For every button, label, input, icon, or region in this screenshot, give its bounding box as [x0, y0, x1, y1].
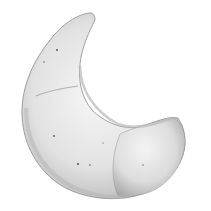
illustration-canvas: [0, 0, 211, 211]
crescent-specimen-illustration: [0, 0, 211, 211]
